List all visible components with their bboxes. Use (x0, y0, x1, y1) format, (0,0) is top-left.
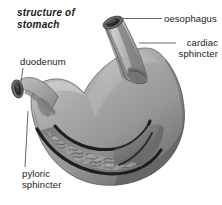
stomach-diagram-figure: structure of stomach oesophagus cardiac … (0, 0, 222, 205)
leader-pyloric-sphincter (25, 111, 28, 167)
stomach-illustration (0, 0, 222, 205)
